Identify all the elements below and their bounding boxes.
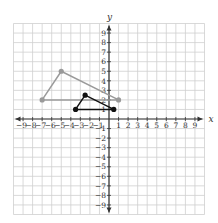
black-triangle-vertex (73, 107, 78, 112)
y-tick-label: −2 (95, 134, 106, 143)
black-triangle-vertex (111, 107, 116, 112)
y-tick-label: −9 (95, 201, 106, 210)
coordinate-plane: −9−8−7−6−5−4−3−2−1123456789−9−8−7−6−5−4−… (0, 0, 218, 223)
y-tick-label: −1 (95, 124, 106, 133)
y-tick-label: −3 (95, 143, 106, 152)
black-triangle (76, 95, 114, 109)
x-tick-label: 9 (193, 121, 198, 130)
x-tick-label: 2 (126, 121, 131, 130)
x-tick-label: 5 (154, 121, 159, 130)
x-tick-label: 7 (173, 121, 178, 130)
y-tick-label: 9 (101, 29, 106, 38)
y-tick-label: −7 (95, 182, 106, 191)
gray-triangle-vertex (40, 97, 45, 102)
y-tick-label: 7 (101, 48, 106, 57)
gray-triangle-vertex (116, 97, 121, 102)
y-tick-label: −8 (95, 191, 106, 200)
y-tick-label: −6 (95, 172, 106, 181)
x-tick-label: 8 (183, 121, 188, 130)
y-axis-label: y (106, 12, 113, 22)
x-axis-arrow-right-icon (198, 117, 203, 122)
x-tick-label: 4 (145, 121, 150, 130)
y-axis-arrow-down-icon (107, 208, 112, 213)
y-axis-arrow-up-icon (107, 26, 112, 31)
y-tick-label: 5 (101, 67, 106, 76)
y-tick-label: 8 (101, 38, 106, 47)
black-triangle-vertex (83, 93, 88, 98)
y-tick-label: 4 (101, 77, 106, 86)
y-tick-label: −4 (95, 153, 106, 162)
x-tick-label: 1 (116, 121, 121, 130)
y-tick-label: −5 (95, 162, 106, 171)
x-tick-label: 6 (164, 121, 169, 130)
gray-triangle-vertex (59, 69, 64, 74)
x-tick-label: 3 (135, 121, 140, 130)
x-axis-label: x (209, 114, 214, 124)
axes (16, 26, 203, 213)
y-tick-label: 6 (101, 57, 106, 66)
